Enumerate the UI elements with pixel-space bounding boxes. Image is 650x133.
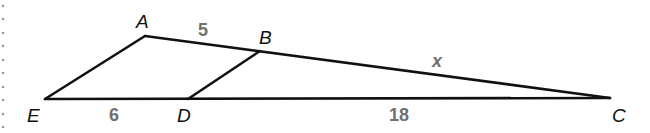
vertex-label-e: E bbox=[27, 105, 40, 126]
segment-db bbox=[188, 51, 260, 99]
triangle-diagram: A B C D E 5 x 6 18 bbox=[0, 0, 650, 133]
measure-ab: 5 bbox=[198, 20, 208, 40]
segment-ea bbox=[45, 36, 145, 99]
measure-dc: 18 bbox=[389, 105, 409, 125]
measure-ed: 6 bbox=[109, 105, 119, 125]
vertex-label-c: C bbox=[612, 105, 626, 126]
vertex-label-d: D bbox=[177, 105, 191, 126]
segment-ec bbox=[45, 98, 610, 99]
vertex-label-b: B bbox=[259, 27, 272, 48]
vertex-label-a: A bbox=[135, 11, 149, 32]
measure-bc: x bbox=[431, 51, 443, 71]
segment-ac bbox=[145, 36, 610, 98]
